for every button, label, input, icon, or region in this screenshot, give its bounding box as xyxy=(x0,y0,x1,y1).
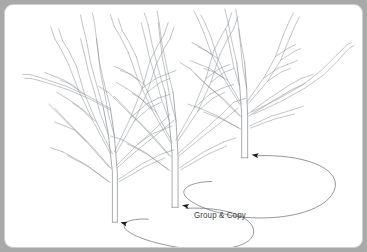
tree-illustration-canvas xyxy=(5,5,362,247)
tree-group-right xyxy=(23,9,354,158)
arrowhead-to-left-tree xyxy=(120,220,128,227)
trunk-left xyxy=(103,108,117,222)
arrowhead-to-right-tree xyxy=(251,152,259,158)
group-and-copy-label: Group & Copy xyxy=(194,210,246,221)
trunk-center xyxy=(165,92,178,207)
drawing-panel: Group & Copy xyxy=(4,4,363,248)
illustration-root: Group & Copy xyxy=(0,0,367,252)
arrow-paths xyxy=(124,156,335,247)
trunk-right xyxy=(237,63,248,158)
